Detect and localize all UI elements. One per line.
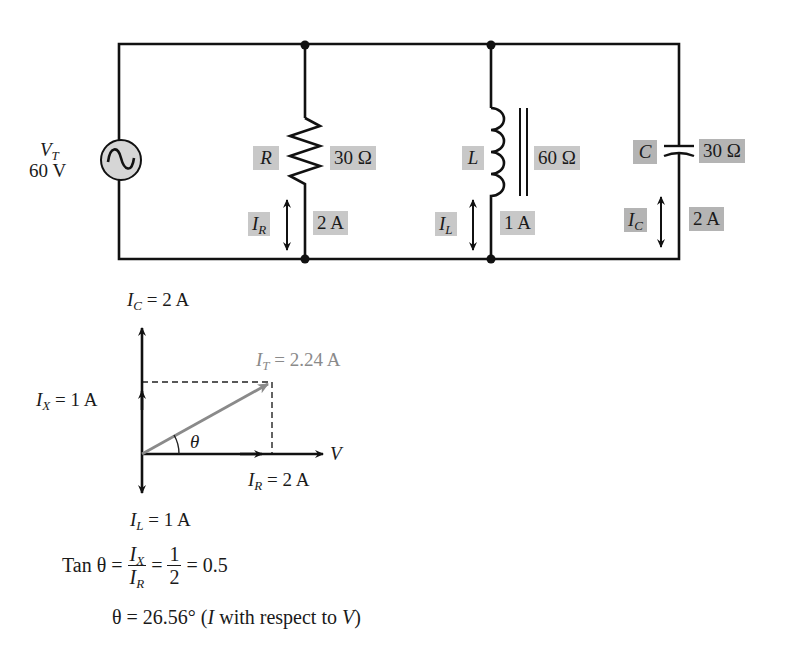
resistor-current-symbol-label: IR (248, 212, 270, 236)
il-subscript: L (445, 222, 452, 237)
source-symbol: V (40, 139, 52, 160)
resistor-impedance-label: 30 Ω (330, 146, 376, 170)
phasor-il-label: IL = 1 A (130, 510, 191, 529)
eq2-v: V (342, 606, 354, 628)
tan-theta-equation: Tan θ = IX IR = 1 2 = 0.5 (62, 545, 228, 590)
inductor-impedance-label: 60 Ω (534, 146, 580, 170)
eq2-suffix: ) (354, 606, 361, 628)
eq1-equals: = (151, 554, 162, 576)
resistor-current-value-label: 2 A (313, 211, 348, 235)
circuit-wires (119, 44, 679, 259)
ic-subscript: C (634, 218, 643, 233)
capacitor-symbol-label: C (633, 140, 657, 164)
phasor-ix-value: = 1 A (50, 389, 97, 410)
phasor-ic-value: = 2 A (142, 289, 189, 310)
eq1-prefix: Tan θ = (62, 554, 123, 576)
capacitor-impedance-label: 30 Ω (699, 139, 745, 163)
phasor-ic-label: IC = 2 A (127, 290, 189, 309)
ac-source-icon (101, 140, 141, 180)
phasor-it-value: = 2.24 A (270, 349, 341, 370)
ir-subscript: R (258, 222, 266, 237)
fraction-one-half: 1 2 (167, 543, 181, 588)
inductor-symbol-label: L (462, 146, 484, 170)
eq1-den-subscript: R (136, 576, 144, 591)
phasor-ic-subscript: C (133, 298, 142, 313)
eq2-prefix: θ = 26.56° ( (112, 606, 208, 628)
inductor-current-symbol-label: IL (435, 212, 457, 236)
eq2-middle: with respect to (214, 606, 342, 628)
inductor-current-value-label: 1 A (500, 211, 535, 235)
source-symbol-label: VT (40, 140, 59, 159)
phasor-it-subscript: T (262, 358, 269, 373)
eq1-result: = 0.5 (186, 554, 227, 576)
phasor-ir-label: IR = 2 A (248, 470, 309, 489)
eq1-frac2-den: 2 (167, 566, 181, 588)
phasor-ix-label: IX = 1 A (36, 390, 97, 409)
phasor-ir-value: = 2 A (262, 469, 309, 490)
phasor-il-value: = 1 A (144, 509, 191, 530)
capacitor-current-symbol-label: IC (624, 208, 647, 232)
phasor-il-subscript: L (136, 518, 143, 533)
fraction-ix-over-ir: IX IR (128, 543, 147, 588)
phasor-it-label: IT = 2.24 A (256, 350, 340, 369)
phasor-v-label: V (330, 444, 342, 463)
theta-result-equation: θ = 26.56° (I with respect to V) (112, 607, 361, 627)
eq1-frac2-num: 1 (167, 543, 181, 566)
capacitor-current-value-label: 2 A (689, 207, 724, 231)
phasor-theta-label: θ (190, 432, 199, 451)
resistor-symbol-label: R (253, 146, 279, 170)
source-voltage-label: 60 V (29, 161, 66, 180)
